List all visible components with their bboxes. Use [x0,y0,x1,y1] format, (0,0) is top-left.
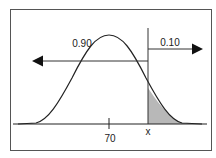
left-area-label: 0.90 [72,38,92,49]
right-area-label: 0.10 [160,37,180,48]
mean-label: 70 [104,133,116,144]
normal-distribution-diagram: 0.90 0.10 70 x [0,0,216,158]
cutoff-label: x [146,126,151,137]
diagram-frame [11,10,212,151]
